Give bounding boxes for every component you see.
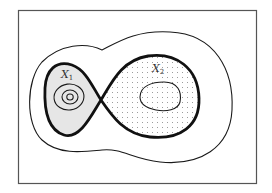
phase-diagram: X1 X2 [0,0,272,193]
right-lobe-dotted [101,55,199,137]
